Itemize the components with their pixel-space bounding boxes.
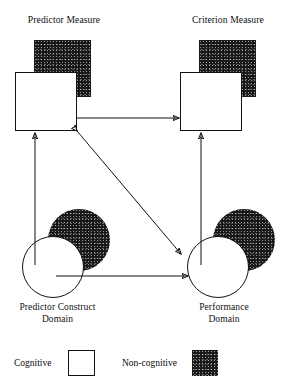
legend-swatch-noncognitive bbox=[192, 350, 218, 376]
edge-measure-to-performance bbox=[77, 131, 181, 254]
legend-label-noncognitive: Non-cognitive bbox=[122, 358, 177, 369]
diagram-canvas: Predictor Measure Criterion Measure bbox=[0, 0, 285, 391]
arrow-layer bbox=[0, 0, 285, 391]
label-performance-domain: Performance Domain bbox=[163, 302, 285, 325]
legend-swatch-cognitive bbox=[68, 350, 95, 376]
legend-label-cognitive: Cognitive bbox=[14, 358, 51, 369]
label-predictor-construct-domain: Predictor Construct Domain bbox=[0, 302, 115, 325]
